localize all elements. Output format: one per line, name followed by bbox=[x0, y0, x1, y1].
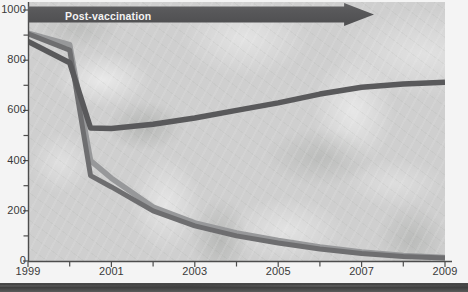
x-axis-tick-label: 2003 bbox=[165, 266, 225, 277]
data-series-layer bbox=[28, 2, 445, 261]
bottom-strip bbox=[0, 283, 468, 292]
post-vaccination-label: Post-vaccination bbox=[65, 10, 151, 22]
x-axis-tick-label: 2005 bbox=[248, 266, 308, 277]
chart-container: 02004006008001000 1999200120032005200720… bbox=[0, 0, 468, 292]
x-axis-tick-label: 2001 bbox=[81, 266, 141, 277]
y-axis-tick-label: 1000 bbox=[0, 4, 26, 15]
y-axis-tick-label: 400 bbox=[0, 155, 26, 166]
series-line-dark bbox=[28, 41, 445, 128]
post-vaccination-arrow: Post-vaccination bbox=[28, 3, 374, 26]
y-axis-tick-label: 200 bbox=[0, 205, 26, 216]
y-axis-tick-label: 800 bbox=[0, 54, 26, 65]
x-axis-tick-label: 1999 bbox=[0, 266, 58, 277]
bottom-strip-sheen bbox=[0, 285, 468, 287]
x-axis-tick-label: 2009 bbox=[415, 266, 468, 277]
y-axis-tick-label: 600 bbox=[0, 104, 26, 115]
plot-area bbox=[28, 2, 445, 261]
x-axis-tick-label: 2007 bbox=[332, 266, 392, 277]
series-line-light-gray bbox=[28, 33, 445, 257]
